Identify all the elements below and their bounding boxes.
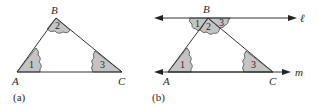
arrow-left-icon [154,69,163,75]
vertex-label-a: A [11,75,19,87]
angle-label-3-at-c: 3 [251,59,256,70]
angle-label-1-at-a: 1 [180,59,185,70]
vertex-label-c: C [269,75,277,87]
arrow-right-icon [282,69,291,75]
vertex-label-a: A [162,75,170,87]
vertex-label-b: B [51,4,58,16]
figure-a: B A C 1 2 3 (a) [11,4,126,104]
angle-label-3-at-b: 3 [219,17,224,28]
vertex-label-c: C [118,75,126,87]
line-label-m: m [295,66,303,78]
angle-label-1: 1 [29,59,34,70]
arrow-right-icon [288,15,297,21]
angle-label-2-at-b: 2 [206,21,211,32]
angle-label-1-at-b: 1 [195,18,200,29]
caption-b: (b) [152,91,165,104]
arrow-left-icon [154,15,163,21]
angle-label-3: 3 [100,59,105,70]
triangle-angle-sum-diagram: B A C 1 2 3 (a) B A C ℓ m 1 2 3 1 3 ( [0,0,318,110]
angle-label-2: 2 [55,20,60,31]
line-label-l: ℓ [300,12,305,24]
figure-b: B A C ℓ m 1 2 3 1 3 (b) [152,3,305,104]
caption-a: (a) [13,91,26,104]
vertex-label-b: B [203,3,210,15]
angle-3-at-c-region [243,51,274,72]
